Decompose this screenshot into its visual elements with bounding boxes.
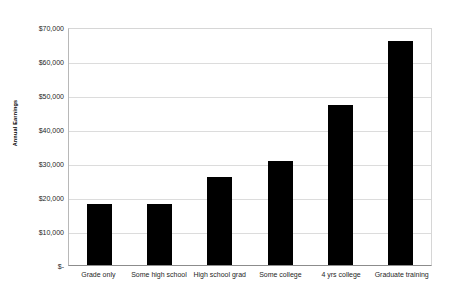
y-axis-tick-label: $- <box>18 263 64 270</box>
bar[interactable] <box>207 177 232 265</box>
y-axis-tick-label: $20,000 <box>18 195 64 202</box>
y-axis-tick-label: $10,000 <box>18 229 64 236</box>
bar-chart: Annual Earnings $-$10,000$20,000$30,000$… <box>0 0 450 308</box>
bar[interactable] <box>268 161 293 265</box>
bar[interactable] <box>87 204 112 265</box>
bar[interactable] <box>328 105 353 265</box>
x-axis-tick-label: Graduate training <box>371 270 432 279</box>
y-axis-tick-label: $70,000 <box>18 25 64 32</box>
bar-slot <box>190 29 250 265</box>
y-axis-tick-label: $40,000 <box>18 127 64 134</box>
bar-slot <box>129 29 189 265</box>
x-axis-tick-labels: Grade onlySome high schoolHigh school gr… <box>68 270 432 279</box>
y-axis-tick-label: $60,000 <box>18 59 64 66</box>
bar[interactable] <box>388 41 413 265</box>
x-axis-tick-label: High school grad <box>189 270 250 279</box>
bars-group <box>69 29 431 265</box>
x-axis-tick-label: 4 yrs college <box>311 270 372 279</box>
x-axis-tick-label: Grade only <box>68 270 129 279</box>
plot-area <box>68 28 432 266</box>
bar[interactable] <box>147 204 172 265</box>
bar-slot <box>371 29 431 265</box>
bar-slot <box>250 29 310 265</box>
bar-slot <box>69 29 129 265</box>
y-axis-tick-labels: $-$10,000$20,000$30,000$40,000$50,000$60… <box>14 0 64 308</box>
x-axis-tick-label: Some college <box>250 270 311 279</box>
bar-slot <box>310 29 370 265</box>
y-axis-tick-label: $50,000 <box>18 93 64 100</box>
y-axis-tick-label: $30,000 <box>18 161 64 168</box>
x-axis-tick-label: Some high school <box>129 270 190 279</box>
